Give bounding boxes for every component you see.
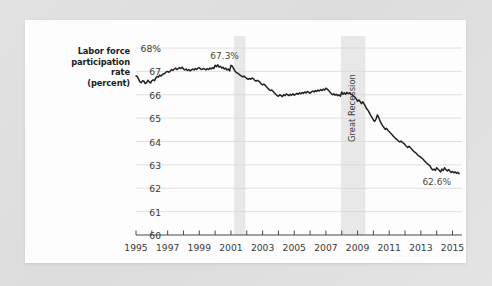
- x-tick-label-2007: 2007: [314, 242, 337, 253]
- x-tick-label-1999: 1999: [188, 242, 211, 253]
- x-axis-tick-labels: 1995199719992001200320052007200920112013…: [25, 20, 466, 263]
- page-background: Labor force participation rate (percent)…: [0, 0, 492, 286]
- x-tick-label-2013: 2013: [409, 242, 432, 253]
- x-tick-label-2015: 2015: [441, 242, 464, 253]
- x-tick-label-2005: 2005: [283, 242, 306, 253]
- trough-annotation: 62.6%: [422, 177, 451, 187]
- chart-card: Labor force participation rate (percent)…: [25, 20, 466, 263]
- peak-annotation: 67.3%: [210, 51, 239, 61]
- chart-plot-area: Labor force participation rate (percent)…: [25, 20, 466, 263]
- x-tick-label-2001: 2001: [219, 242, 242, 253]
- x-tick-label-2003: 2003: [251, 242, 274, 253]
- x-tick-label-2009: 2009: [346, 242, 369, 253]
- great-recession-label: Great Recession: [347, 74, 357, 142]
- x-tick-label-2011: 2011: [378, 242, 401, 253]
- x-tick-label-1995: 1995: [124, 242, 147, 253]
- x-tick-label-1997: 1997: [156, 242, 179, 253]
